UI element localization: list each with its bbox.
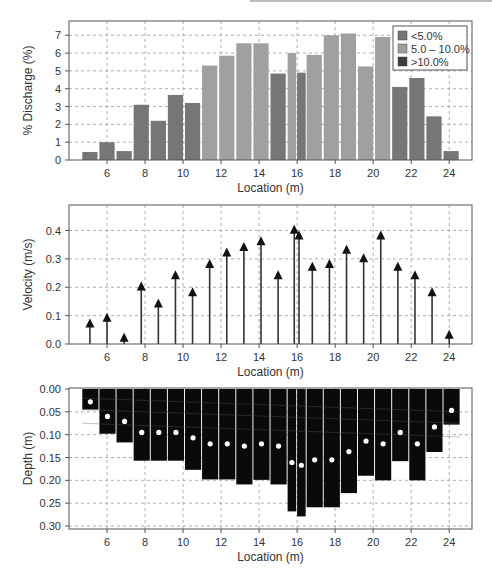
- y-tick-label: 0.1: [46, 310, 61, 322]
- x-axis-title: Location (m): [237, 550, 304, 564]
- legend-label: >10.0%: [411, 56, 449, 68]
- mean-depth-dot: [346, 449, 351, 454]
- depth-column: [134, 389, 150, 461]
- discharge-bar: [358, 66, 373, 160]
- velocity-arrowhead-icon: [410, 270, 419, 279]
- mean-depth-dot: [208, 441, 213, 446]
- depth-column: [443, 389, 459, 425]
- y-tick-label: 0.00: [40, 383, 61, 395]
- mean-depth-dot: [88, 399, 93, 404]
- discharge-bar: [324, 35, 339, 160]
- y-axis-title: % Discharge (%): [21, 45, 35, 135]
- depth-column: [185, 389, 201, 470]
- x-tick-label: 6: [104, 351, 110, 363]
- depth-column: [341, 389, 357, 493]
- y-axis: 0.00.10.20.30.4Velocity (m/s): [21, 225, 69, 350]
- x-tick-label: 20: [367, 351, 379, 363]
- y-tick-label: 4: [55, 83, 61, 95]
- legend: <5.0%5.0 – 10.0%>10.0%: [393, 26, 470, 70]
- x-tick-label: 18: [329, 536, 341, 548]
- discharge-bar: [307, 55, 322, 160]
- velocity-arrowhead-icon: [308, 262, 317, 271]
- discharge-bar: [134, 105, 149, 160]
- y-axis-title: Depth (m): [21, 432, 35, 485]
- depth-column: [151, 389, 167, 461]
- y-tick-label: 0.10: [40, 429, 61, 441]
- mean-depth-dot: [329, 457, 334, 462]
- velocity-arrowhead-icon: [137, 282, 146, 291]
- discharge-bar: [99, 142, 114, 160]
- x-tick-label: 12: [215, 536, 227, 548]
- velocity-arrowhead-icon: [171, 270, 180, 279]
- x-tick-label: 6: [104, 167, 110, 179]
- x-tick-label: 22: [405, 536, 417, 548]
- discharge-bar: [253, 43, 268, 160]
- velocity-arrowhead-icon: [188, 287, 197, 296]
- discharge-bar: [288, 53, 297, 160]
- velocity-arrowhead-icon: [222, 248, 231, 257]
- x-axis: 681012141618202224Location (m): [104, 529, 455, 564]
- legend-swatch: [398, 31, 407, 40]
- y-tick-label: 5: [55, 65, 61, 77]
- y-tick-label: 0.2: [46, 281, 61, 293]
- velocity-arrowhead-icon: [103, 313, 112, 322]
- mean-depth-dot: [225, 441, 230, 446]
- mean-depth-dot: [312, 457, 317, 462]
- legend-swatch: [398, 57, 407, 66]
- y-tick-label: 0: [55, 154, 61, 166]
- mean-depth-dot: [299, 463, 304, 468]
- y-tick-label: 0.0: [46, 338, 61, 350]
- discharge-bar: [185, 103, 200, 160]
- mean-depth-dot: [259, 441, 264, 446]
- y-tick-label: 0.15: [40, 452, 61, 464]
- x-tick-label: 10: [177, 167, 189, 179]
- legend-swatch: [398, 44, 407, 53]
- x-tick-label: 12: [215, 167, 227, 179]
- mean-depth-dot: [415, 441, 420, 446]
- depth-column: [288, 389, 297, 511]
- mean-depth-dot: [105, 414, 110, 419]
- x-axis: 681012141618202224Location (m): [104, 344, 455, 379]
- y-axis: 01234567% Discharge (%): [21, 29, 69, 166]
- discharge-bar: [236, 43, 251, 160]
- data-series: [82, 389, 459, 516]
- x-tick-label: 6: [104, 536, 110, 548]
- velocity-arrowhead-icon: [239, 242, 248, 251]
- depth-column: [271, 389, 287, 484]
- x-tick-label: 16: [291, 536, 303, 548]
- mean-depth-dot: [289, 460, 294, 465]
- x-tick-label: 16: [291, 167, 303, 179]
- mean-depth-dot: [122, 419, 127, 424]
- velocity-arrowhead-icon: [274, 270, 283, 279]
- x-tick-label: 10: [177, 351, 189, 363]
- depth-column: [392, 389, 408, 461]
- y-tick-label: 0.20: [40, 474, 61, 486]
- depth-column: [99, 389, 115, 434]
- y-tick-label: 3: [55, 101, 61, 113]
- discharge-bar: [82, 152, 97, 160]
- mean-depth-dot: [190, 435, 195, 440]
- y-tick-label: 6: [55, 47, 61, 59]
- x-tick-label: 18: [329, 167, 341, 179]
- y-axis: 0.000.050.100.150.200.250.30Depth (m): [21, 383, 69, 532]
- velocity-arrowhead-icon: [445, 330, 454, 339]
- velocity-arrowhead-icon: [393, 262, 402, 271]
- y-tick-label: 0.3: [46, 253, 61, 265]
- x-tick-label: 18: [329, 351, 341, 363]
- x-tick-label: 10: [177, 536, 189, 548]
- grid-lines: [69, 205, 472, 344]
- x-tick-label: 22: [405, 351, 417, 363]
- x-tick-label: 14: [253, 167, 265, 179]
- discharge-bar: [392, 87, 407, 160]
- discharge-bar: [375, 37, 390, 160]
- discharge-bar: [297, 73, 306, 160]
- mean-depth-dot: [276, 443, 281, 448]
- depth-column: [358, 389, 374, 476]
- chart-panel-1: 681012141618202224Location (m)01234567% …: [21, 21, 472, 195]
- velocity-arrowhead-icon: [85, 318, 94, 327]
- mean-depth-dot: [398, 430, 403, 435]
- x-tick-label: 14: [253, 351, 265, 363]
- discharge-bar: [409, 78, 424, 160]
- discharge-bar: [443, 151, 458, 160]
- x-tick-label: 20: [367, 536, 379, 548]
